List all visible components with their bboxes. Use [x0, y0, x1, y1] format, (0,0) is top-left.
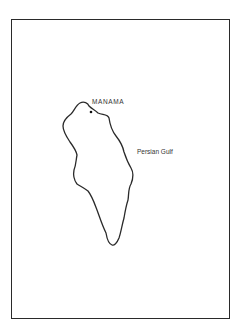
map-canvas — [0, 0, 244, 331]
bahrain-island-outline — [63, 102, 133, 245]
manama-city-marker-icon — [90, 111, 93, 114]
capital-label: MANAMA — [92, 98, 124, 105]
sea-label: Persian Gulf — [137, 148, 173, 155]
